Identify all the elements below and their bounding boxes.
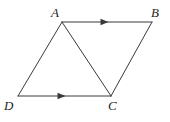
geometry-figure: A B C D [0, 0, 170, 122]
segment-AC-diagonal [62, 22, 111, 96]
vertex-label-a: A [51, 6, 59, 19]
vertex-label-b: B [151, 6, 159, 19]
arrow-mark-AB-icon [101, 19, 109, 25]
arrow-mark-DC-icon [58, 93, 66, 99]
vertex-label-c: C [108, 99, 117, 112]
segment-BC [111, 22, 152, 96]
segment-AD [18, 22, 62, 96]
parallelogram-diagram-svg [0, 0, 170, 122]
vertex-label-d: D [4, 99, 13, 112]
